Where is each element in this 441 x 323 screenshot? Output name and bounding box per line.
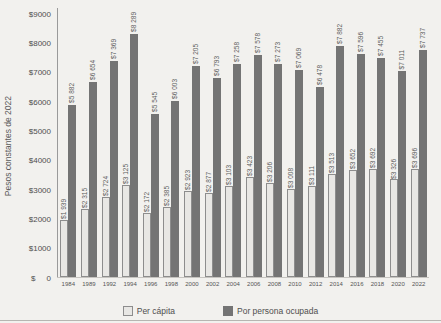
x-tick-label: 2020 — [391, 281, 404, 287]
bar-value-label: $3 125 — [122, 164, 129, 184]
bar-per-capita: $3 696 — [411, 169, 419, 277]
x-tick-label: 2004 — [226, 281, 239, 287]
x-tick-label: 2016 — [350, 281, 363, 287]
legend: Per cápita Por persona ocupada — [0, 306, 441, 316]
legend-label-por-persona-ocupada: Por persona ocupada — [237, 306, 318, 316]
x-tick-label: 2006 — [247, 281, 260, 287]
x-tick-label: 1996 — [144, 281, 157, 287]
x-tick-label: 2018 — [371, 281, 384, 287]
y-tick-label: $3000 — [29, 186, 51, 195]
x-tick-label: 1998 — [165, 281, 178, 287]
bar-value-label: $2 315 — [81, 188, 88, 208]
bar-group-2012: $3 111$6 4782012 — [305, 13, 326, 277]
bar-per-capita: $3 692 — [369, 169, 377, 277]
bar-per-capita: $3 513 — [328, 174, 336, 277]
bar-group-1992: $2 724$7 3691992 — [99, 13, 120, 277]
bar-value-label: $2 724 — [102, 176, 109, 196]
bar-value-label: $7 455 — [377, 36, 384, 56]
bar-value-label: $3 692 — [369, 148, 376, 168]
bar-per-capita: $3 008 — [287, 189, 295, 277]
bar-por-persona-ocupada: $7 578 — [254, 55, 262, 277]
bar-value-label: $3 696 — [411, 148, 418, 168]
x-tick-label: 2012 — [309, 281, 322, 287]
plot-area: $1 939$5 8821984$2 315$6 6541989$2 724$7… — [58, 13, 429, 277]
bar-value-label: $6 793 — [213, 56, 220, 76]
bar-per-capita: $2 315 — [81, 209, 89, 277]
bar-value-label: $7 596 — [357, 32, 364, 52]
bar-value-label: $7 369 — [110, 39, 117, 59]
x-tick-label: 2008 — [268, 281, 281, 287]
y-tick-label: $7000 — [29, 68, 51, 77]
bar-per-capita: $3 125 — [122, 185, 130, 277]
bar-per-capita: $3 206 — [266, 183, 274, 277]
bar-per-capita: $3 652 — [349, 170, 357, 277]
bar-per-capita: $2 172 — [143, 213, 151, 277]
bar-por-persona-ocupada: $7 737 — [419, 50, 427, 277]
bar-value-label: $7 273 — [274, 42, 281, 62]
bar-por-persona-ocupada: $8 289 — [130, 34, 138, 277]
bar-por-persona-ocupada: $7 258 — [233, 64, 241, 277]
bar-value-label: $7 882 — [336, 24, 343, 44]
bar-group-2002: $2 877$6 7932002 — [202, 13, 223, 277]
x-tick-label: 2000 — [185, 281, 198, 287]
y-tick-label: $1000 — [29, 244, 51, 253]
bar-group-2020: $3 326$7 0112020 — [388, 13, 409, 277]
bar-per-capita: $3 423 — [246, 177, 254, 277]
bar-value-label: $3 326 — [390, 159, 397, 179]
bar-por-persona-ocupada: $7 069 — [295, 70, 303, 277]
bar-por-persona-ocupada: $6 793 — [213, 78, 221, 277]
bar-value-label: $3 111 — [308, 166, 315, 185]
bar-chart: Pesos constantes de 2022 $ 0$1000$2000$3… — [0, 0, 441, 323]
bar-group-1994: $3 125$8 2891994 — [120, 13, 141, 277]
bar-value-label: $5 545 — [151, 92, 158, 112]
bar-group-2010: $3 008$7 0692010 — [285, 13, 306, 277]
bar-value-label: $6 478 — [316, 65, 323, 85]
bar-por-persona-ocupada: $7 011 — [398, 71, 406, 277]
bar-value-label: $3 103 — [225, 165, 232, 185]
y-tick-label: $2000 — [29, 215, 51, 224]
y-tick-label: $6000 — [29, 98, 51, 107]
bar-per-capita: $2 385 — [163, 207, 171, 277]
bar-por-persona-ocupada: $7 369 — [110, 61, 118, 277]
bar-per-capita: $2 877 — [205, 193, 213, 277]
legend-swatch-per-capita — [123, 306, 133, 316]
y-tick-label: $5000 — [29, 127, 51, 136]
x-tick-label: 1984 — [62, 281, 75, 287]
page-bottom-rule — [0, 320, 441, 321]
y-tick-label: $ 0 — [31, 274, 51, 283]
bar-por-persona-ocupada: $7 596 — [357, 54, 365, 277]
bar-value-label: $5 882 — [68, 83, 75, 103]
bar-per-capita: $2 923 — [184, 191, 192, 277]
bar-value-label: $6 003 — [171, 79, 178, 99]
bar-value-label: $2 172 — [143, 192, 150, 212]
x-tick-label: 1992 — [103, 281, 116, 287]
bar-per-capita: $1 939 — [60, 220, 68, 277]
bar-value-label: $7 578 — [254, 33, 261, 53]
bar-group-1984: $1 939$5 8821984 — [58, 13, 79, 277]
bar-per-capita: $3 103 — [225, 186, 233, 277]
bar-value-label: $3 008 — [287, 168, 294, 188]
y-tick-label: $8000 — [29, 39, 51, 48]
bar-por-persona-ocupada: $6 478 — [316, 87, 324, 277]
bar-per-capita: $3 111 — [308, 186, 316, 277]
legend-item-por-persona-ocupada: Por persona ocupada — [223, 306, 318, 316]
bar-group-2006: $3 423$7 5782006 — [243, 13, 264, 277]
x-tick-label: 1994 — [123, 281, 136, 287]
bar-value-label: $2 877 — [205, 172, 212, 192]
bar-per-capita: $2 724 — [102, 197, 110, 277]
bar-value-label: $3 652 — [349, 149, 356, 169]
bar-group-2014: $3 513$7 8822014 — [326, 13, 347, 277]
bar-value-label: $8 289 — [130, 12, 137, 32]
x-tick-label: 2014 — [330, 281, 343, 287]
bar-value-label: $7 258 — [233, 42, 240, 62]
bar-group-1989: $2 315$6 6541989 — [79, 13, 100, 277]
bar-group-2004: $3 103$7 2582004 — [223, 13, 244, 277]
y-tick-label: $4000 — [29, 156, 51, 165]
x-tick-label: 2022 — [412, 281, 425, 287]
bar-group-2008: $3 206$7 2732008 — [264, 13, 285, 277]
x-tick-label: 1989 — [82, 281, 95, 287]
bar-value-label: $2 923 — [184, 170, 191, 190]
x-tick-label: 2010 — [288, 281, 301, 287]
bar-por-persona-ocupada: $7 455 — [377, 58, 385, 277]
bar-group-1996: $2 172$5 5451996 — [140, 13, 161, 277]
